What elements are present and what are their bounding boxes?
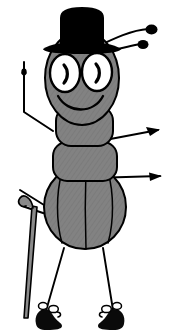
left-eye-icon [50,54,80,92]
midsection-icon [53,142,117,181]
ant-character-drawing [0,0,183,336]
midsection-group [53,142,117,181]
antenna-upper-tip-icon [146,25,158,35]
shoe-right-group [98,303,124,330]
arm-left-raised-hand-icon [21,69,26,76]
illustration-canvas: Cartoon Ant Gentleman Black-and-white ca… [0,0,183,336]
antenna-lower-tip-icon [138,40,149,49]
shoe-left-group [36,303,62,330]
hat-crown-icon [60,7,104,48]
right-eye-icon [82,53,112,91]
